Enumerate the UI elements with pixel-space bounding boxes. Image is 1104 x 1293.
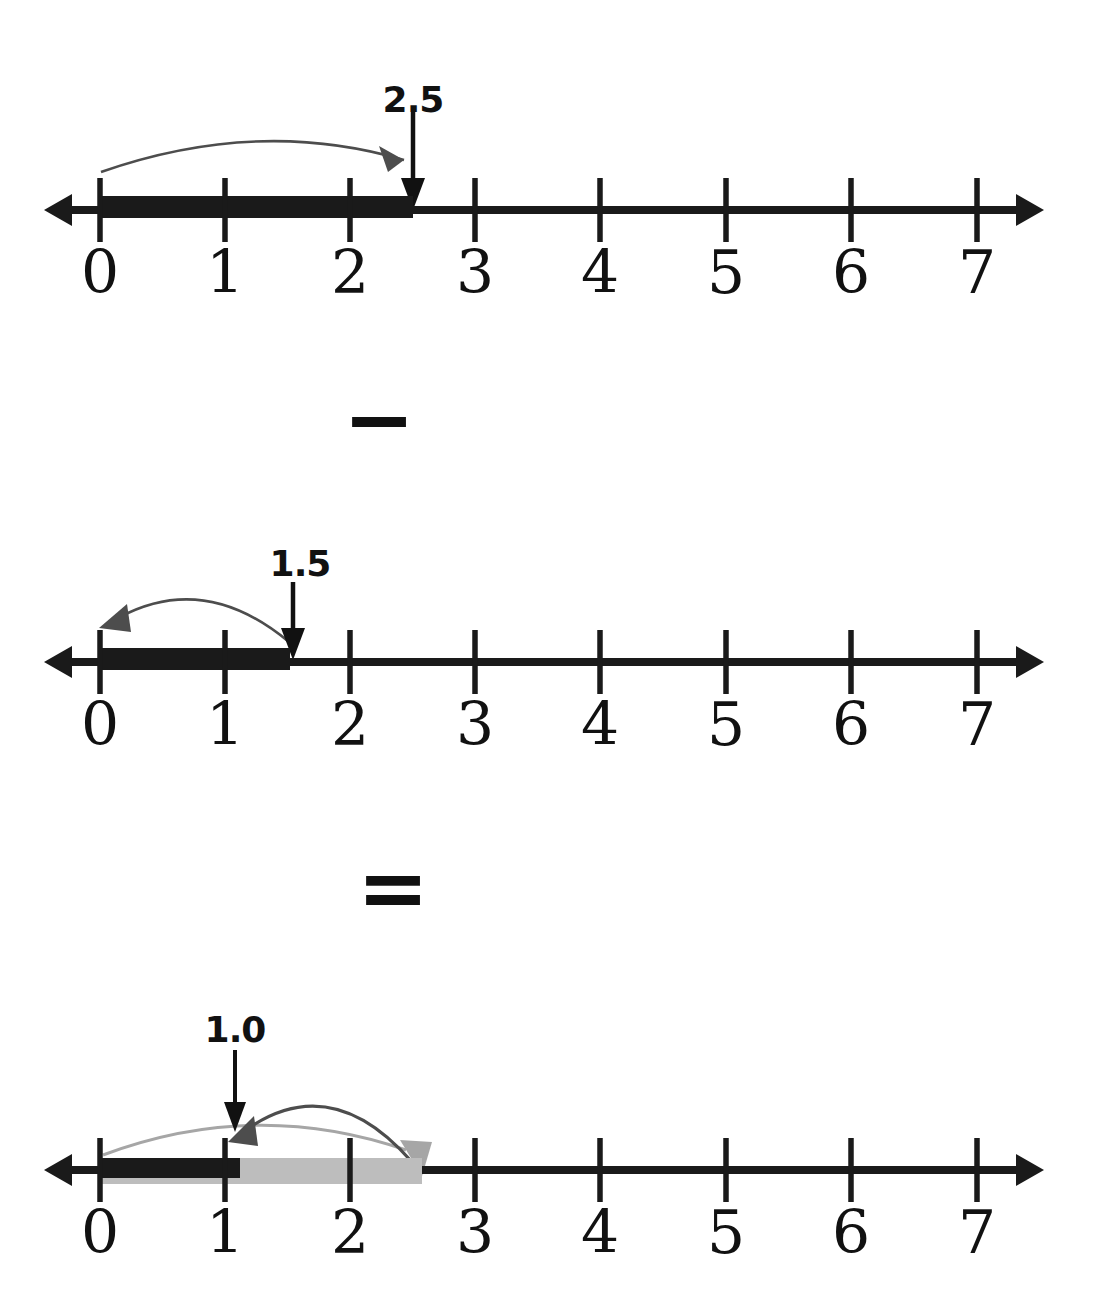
figure-canvas: 2.5 0 1 2 3 4 5 6 7 − — [0, 0, 1104, 1293]
tick-label-2: 2 — [331, 694, 369, 754]
tick-label-4: 4 — [581, 1202, 619, 1262]
tick-label-5: 5 — [707, 242, 745, 302]
tick-label-4: 4 — [581, 694, 619, 754]
tick-label-5: 5 — [707, 694, 745, 754]
highlight-bar-0-to-1.0 — [100, 1158, 240, 1178]
tick-label-7: 7 — [958, 1202, 996, 1262]
tick-label-6: 6 — [832, 1202, 870, 1262]
tick-label-2: 2 — [331, 1202, 369, 1262]
jump-arrow-0-to-2.5 — [101, 141, 404, 172]
operator-row-minus: − — [0, 370, 1104, 460]
operator-row-equals: = — [0, 840, 1104, 950]
number-line-graphic-2 — [0, 520, 1104, 770]
tick-label-6: 6 — [832, 242, 870, 302]
value-label-minuend: 2.5 — [383, 82, 444, 118]
jump-arrow-2.5-to-1.0 — [228, 1106, 412, 1162]
value-label-subtrahend: 1.5 — [270, 546, 331, 582]
value-pointer-2.5 — [401, 112, 425, 210]
tick-label-3: 3 — [456, 694, 494, 754]
tick-label-5: 5 — [707, 1202, 745, 1262]
tick-label-1: 1 — [206, 242, 244, 302]
tick-label-1: 1 — [206, 1202, 244, 1262]
tick-label-0: 0 — [81, 242, 119, 302]
tick-label-6: 6 — [832, 694, 870, 754]
minus-operator: − — [0, 376, 1104, 462]
number-line-panel-difference: 1.0 0 1 2 3 4 5 6 7 — [0, 990, 1104, 1290]
value-label-difference: 1.0 — [205, 1012, 266, 1048]
highlight-bar-0-to-1.5 — [100, 648, 290, 670]
tick-label-3: 3 — [456, 242, 494, 302]
value-pointer-1.0 — [224, 1050, 246, 1132]
number-line-panel-subtrahend: 1.5 0 1 2 3 4 5 6 7 — [0, 520, 1104, 770]
tick-label-7: 7 — [958, 694, 996, 754]
equals-operator: = — [0, 844, 1104, 930]
tick-label-7: 7 — [958, 242, 996, 302]
tick-label-2: 2 — [331, 242, 369, 302]
tick-label-3: 3 — [456, 1202, 494, 1262]
number-line-panel-minuend: 2.5 0 1 2 3 4 5 6 7 — [0, 60, 1104, 300]
tick-label-4: 4 — [581, 242, 619, 302]
jump-arrow-1.5-to-0 — [99, 599, 289, 642]
tick-label-0: 0 — [81, 1202, 119, 1262]
number-line-graphic-1 — [0, 60, 1104, 300]
number-line-graphic-3 — [0, 990, 1104, 1290]
tick-label-0: 0 — [81, 694, 119, 754]
highlight-bar-0-to-2.5 — [100, 196, 413, 218]
tick-label-1: 1 — [206, 694, 244, 754]
